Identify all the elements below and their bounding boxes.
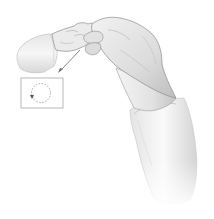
infant-sleeve xyxy=(17,34,57,73)
adult-sleeve xyxy=(128,98,200,210)
motion-inset xyxy=(21,78,63,108)
pointer-line xyxy=(58,50,80,73)
illustration xyxy=(0,0,214,219)
